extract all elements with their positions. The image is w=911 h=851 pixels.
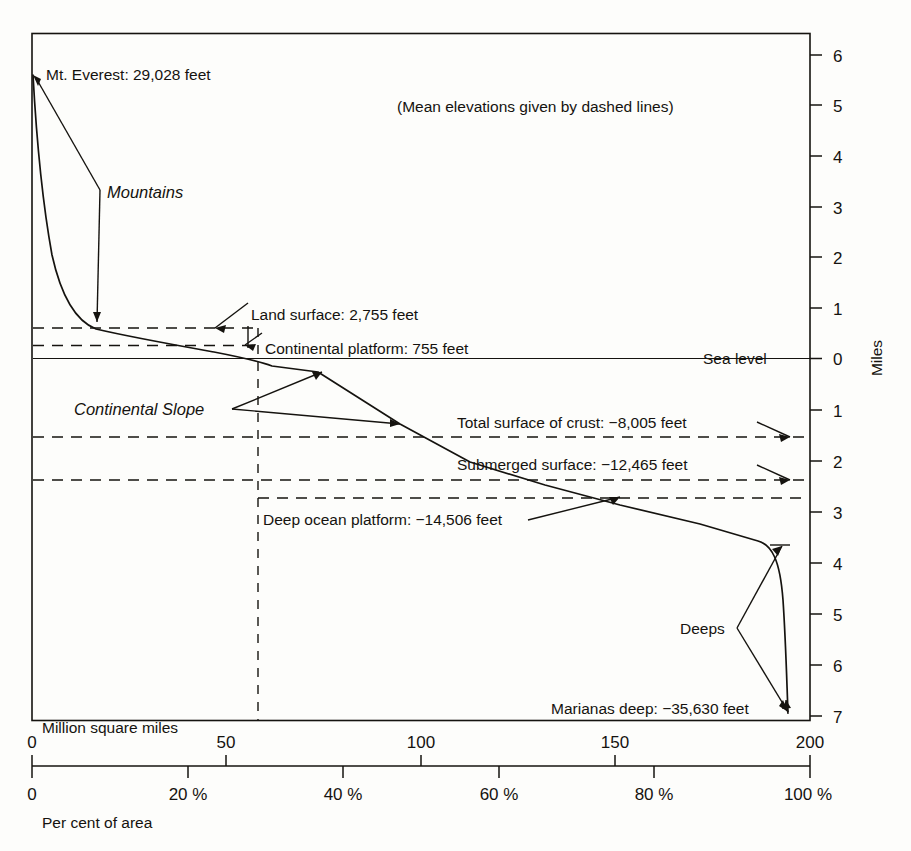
- x-top-tick-150: 150: [601, 733, 629, 752]
- y-tick-label-2-up: 2: [833, 249, 842, 268]
- y-tick-label-5-up: 5: [833, 97, 842, 116]
- hypsographic-curve: [33, 75, 788, 712]
- annotation-marianas-deep: Marianas deep: −35,630 feet: [551, 700, 749, 717]
- annotation-submerged-surface: Submerged surface: −12,465 feet: [457, 456, 688, 473]
- land-surface-leader: [215, 303, 248, 328]
- y-axis-title-miles: Miles: [868, 340, 885, 376]
- x-axis-title-per-cent-of-area: Per cent of area: [42, 814, 153, 831]
- y-tick-label-4-up: 4: [833, 148, 842, 167]
- annotation-total-surface-of-crust: Total surface of crust: −8,005 feet: [457, 414, 687, 431]
- annotation-sea-level: Sea level: [703, 350, 767, 367]
- x-bottom-tick-0: 0: [27, 785, 36, 804]
- y-tick-label-4-down: 4: [833, 555, 842, 574]
- annotation-continental-platform: Continental platform: 755 feet: [265, 340, 469, 357]
- total-crust-leader: [757, 422, 790, 437]
- mountains-leader-lower: [97, 190, 100, 322]
- deep-ocean-platform-leader: [528, 497, 620, 520]
- submerged-surface-leader: [757, 465, 790, 480]
- x-top-tick-100: 100: [407, 733, 435, 752]
- y-tick-label-0: 0: [833, 350, 842, 369]
- y-tick-label-1-up: 1: [833, 300, 842, 319]
- annotation-land-surface: Land surface: 2,755 feet: [251, 306, 419, 323]
- continental-slope-leader-lower: [232, 409, 400, 424]
- x-bottom-tick-80: 80 %: [635, 785, 674, 804]
- mountains-leader-upper: [36, 78, 100, 190]
- continental-slope-leader-upper: [232, 372, 322, 409]
- annotation-mean-elevations-note: (Mean elevations given by dashed lines): [397, 98, 674, 115]
- y-tick-label-3-up: 3: [833, 199, 842, 218]
- y-tick-label-2-down: 2: [833, 453, 842, 472]
- x-top-tick-0: 0: [27, 733, 36, 752]
- x-axis-bottom-ticks: [32, 766, 810, 778]
- y-tick-label-6-up: 6: [833, 47, 842, 66]
- x-bottom-tick-60: 60 %: [480, 785, 519, 804]
- annotation-deeps: Deeps: [680, 620, 725, 637]
- annotation-continental-slope: Continental Slope: [74, 400, 204, 418]
- continental-platform-arrowhead: [245, 344, 256, 351]
- x-top-tick-50: 50: [217, 733, 236, 752]
- hypsographic-curve-figure: 6 5 4 3 2 1 0 1 2 3 4 5 6 7 Miles 0 50 1…: [0, 0, 911, 851]
- annotation-mt-everest: Mt. Everest: 29,028 feet: [46, 66, 211, 83]
- y-tick-label-3-down: 3: [833, 504, 842, 523]
- annotation-deep-ocean-platform: Deep ocean platform: −14,506 feet: [263, 511, 503, 528]
- x-bottom-tick-40: 40 %: [324, 785, 363, 804]
- x-axis-top-ticks: [32, 755, 810, 766]
- annotation-mountains: Mountains: [107, 183, 183, 201]
- y-axis-right-ticks: [810, 55, 822, 716]
- mountains-arrowhead: [93, 312, 101, 322]
- plot-frame: [32, 34, 810, 721]
- y-tick-label-1-down: 1: [833, 402, 842, 421]
- deeps-leader-upper: [737, 546, 782, 628]
- x-axis-title-million-square-miles: Million square miles: [42, 719, 178, 736]
- y-tick-label-5-down: 5: [833, 606, 842, 625]
- x-bottom-tick-20: 20 %: [169, 785, 208, 804]
- x-bottom-tick-100: 100 %: [784, 785, 832, 804]
- y-tick-label-6-down: 6: [833, 657, 842, 676]
- y-tick-label-7-down: 7: [833, 708, 842, 727]
- chart-svg: 6 5 4 3 2 1 0 1 2 3 4 5 6 7 Miles 0 50 1…: [0, 0, 911, 851]
- x-top-tick-200: 200: [796, 733, 824, 752]
